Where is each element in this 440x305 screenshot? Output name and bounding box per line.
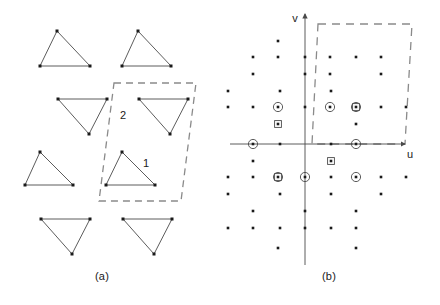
lattice-point	[330, 143, 333, 146]
lattice-point	[304, 210, 307, 213]
lattice-point	[252, 106, 255, 109]
lattice-point	[304, 73, 307, 76]
lattice-point	[227, 227, 230, 230]
triangle-r1c2-up	[121, 30, 173, 68]
triangle-r1c2-up-vertex-0	[137, 30, 140, 33]
lattice-point	[405, 176, 408, 179]
triangle-label-2: 2	[120, 109, 126, 121]
lattice-point	[252, 227, 255, 230]
lattice-dot	[252, 73, 255, 76]
lattice-point	[227, 193, 230, 196]
lattice-dot	[330, 160, 333, 163]
caption-panel-a: (a)	[95, 270, 109, 282]
triangle-r1c1-up-vertex-1	[39, 65, 42, 68]
lattice-dot	[252, 160, 255, 163]
triangle-label-group: 12	[120, 109, 149, 169]
lattice-dot	[355, 210, 358, 213]
lattice-dot	[355, 176, 358, 179]
lattice-point	[227, 106, 230, 109]
reciprocal-cell-outline	[312, 24, 412, 144]
triangle-r2c1-down	[57, 98, 109, 136]
figure-container: 12 uv (a) (b)	[0, 0, 440, 305]
unit-cell-outline	[99, 83, 196, 201]
lattice-point	[330, 227, 333, 230]
lattice-point	[279, 90, 282, 93]
lattice-dot	[405, 176, 408, 179]
lattice-point	[252, 56, 255, 59]
lattice-dot	[304, 106, 307, 109]
lattice-point	[252, 176, 255, 179]
lattice-dot	[304, 210, 307, 213]
lattice-dot	[252, 227, 255, 230]
lattice-dot	[330, 90, 333, 93]
triangle-r4c1-down-vertex-1	[89, 218, 92, 221]
lattice-dot	[330, 143, 333, 146]
reciprocal-cell-group	[312, 24, 412, 144]
triangle-r4c2-down-outline	[123, 219, 172, 254]
lattice-dot	[252, 143, 255, 146]
lattice-dot	[405, 106, 408, 109]
lattice-dot	[279, 193, 282, 196]
lattice-dot	[252, 176, 255, 179]
unit-cell-group	[99, 83, 196, 201]
triangle-r1c1-up-outline	[40, 31, 90, 66]
lattice-dot	[330, 176, 333, 179]
lattice-dot	[380, 176, 383, 179]
lattice-point	[355, 247, 358, 250]
lattice-dot	[355, 143, 358, 146]
lattice-point	[279, 227, 282, 230]
triangle-r2c1-down-vertex-1	[106, 98, 109, 101]
lattice-point	[277, 247, 280, 250]
triangle-r2c2-down-outline	[139, 99, 188, 134]
lattice-point	[405, 106, 408, 109]
lattice-dot	[277, 40, 280, 43]
lattice-point	[380, 56, 383, 59]
lattice-point	[275, 121, 282, 128]
lattice-point	[325, 102, 334, 111]
lattice-point	[380, 176, 383, 179]
lattice-point	[277, 56, 280, 59]
lattice-dot	[227, 176, 230, 179]
panel-a-canvas: 12	[0, 0, 220, 305]
triangle-r4c2-down-vertex-1	[171, 218, 174, 221]
lattice-dot	[329, 56, 332, 59]
lattice-dot	[227, 193, 230, 196]
triangle-r2c2-down-vertex-1	[187, 98, 190, 101]
triangle-r3c2-up-vertex-1	[105, 184, 108, 187]
lattice-dot	[252, 210, 255, 213]
lattice-point	[252, 160, 255, 163]
triangle-r3c1-up-outline	[25, 152, 73, 185]
lattice-point	[227, 90, 230, 93]
axes-group	[230, 14, 405, 265]
lattice-dot	[304, 176, 307, 179]
lattice-dot	[279, 143, 282, 146]
lattice-point	[252, 73, 255, 76]
lattice-dot	[227, 227, 230, 230]
lattice-dot	[277, 247, 280, 250]
triangle-r2c2-down	[138, 98, 190, 136]
lattice-point	[380, 193, 383, 196]
lattice-dot	[330, 227, 333, 230]
triangle-r4c1-down	[40, 218, 92, 256]
lattice-point	[273, 102, 282, 111]
lattice-point	[380, 106, 383, 109]
lattice-point	[355, 123, 358, 126]
lattice-dot	[252, 56, 255, 59]
lattice-dot	[227, 90, 230, 93]
triangle-r2c1-down-vertex-0	[57, 98, 60, 101]
lattice-dot	[329, 106, 332, 109]
lattice-dot	[277, 176, 280, 179]
triangle-r1c2-up-vertex-1	[121, 65, 124, 68]
lattice-dot	[355, 227, 358, 230]
lattice-point	[380, 73, 383, 76]
lattice-point	[330, 193, 333, 196]
triangle-r3c2-up-vertex-0	[121, 151, 124, 154]
triangle-r4c2-down-vertex-0	[122, 218, 125, 221]
lattice-dot	[329, 73, 332, 76]
lattice-point	[351, 172, 360, 181]
panel-b: uv	[220, 0, 440, 305]
lattice-dot	[355, 123, 358, 126]
lattice-point	[328, 158, 335, 165]
lattice-point	[227, 176, 230, 179]
lattice-point	[304, 56, 307, 59]
